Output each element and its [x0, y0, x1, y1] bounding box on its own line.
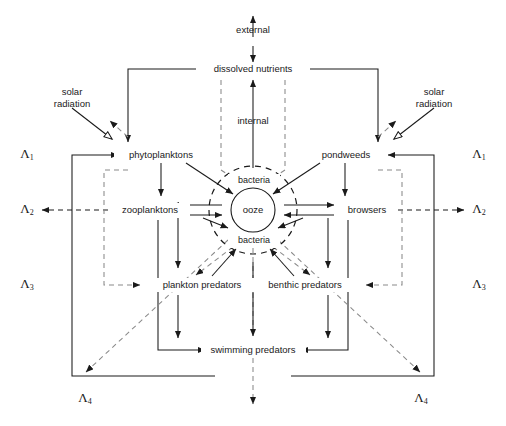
- bacteria-to-plankton-predators-dashed: [196, 247, 233, 275]
- label-internal: internal: [237, 115, 268, 126]
- left-outer-feedback-bracket: [72, 155, 215, 376]
- label-ooze: ooze: [243, 204, 264, 215]
- lambda-1-left: Λ1: [20, 146, 33, 162]
- label-bacteria-bottom: bacteria: [238, 235, 270, 245]
- pondweeds-to-bacteria-arrow: [273, 163, 320, 194]
- label-dissolved-nutrients: dissolved nutrients: [214, 63, 293, 74]
- ecosystem-flow-diagram: external dissolved nutrients internal so…: [0, 0, 506, 426]
- label-benthic-predators: benthic predators: [268, 279, 342, 290]
- zooplankton-to-ooze-arrow: [203, 218, 228, 228]
- lambda-3-right: Λ3: [472, 276, 485, 292]
- label-pondweeds: pondweeds: [322, 149, 371, 160]
- solar-radiation-right: [378, 108, 434, 139]
- label-solar-radiation-left-2: radiation: [54, 98, 90, 109]
- label-browsers: browsers: [348, 204, 387, 215]
- lambda-4-left: Λ4: [78, 390, 91, 406]
- lambda-1-right: Λ1: [472, 146, 485, 162]
- label-swimming-predators: swimming predators: [211, 344, 296, 355]
- lambda-3-left: Λ3: [20, 276, 33, 292]
- left-inner-dashed-bracket: [104, 170, 140, 285]
- label-plankton-predators: plankton predators: [163, 279, 242, 290]
- label-external: external: [236, 24, 270, 35]
- lambda-4-right: Λ4: [414, 390, 427, 406]
- label-solar-radiation-left-1: solar: [62, 86, 83, 97]
- label-solar-radiation-right-1: solar: [424, 86, 445, 97]
- label-bacteria-top: bacteria: [238, 175, 270, 185]
- browsers-to-ooze-arrow: [278, 218, 303, 228]
- phytoplankton-to-bacteria-arrow: [186, 163, 233, 194]
- solar-radiation-left: [72, 108, 128, 139]
- right-outer-feedback-bracket: [291, 155, 434, 376]
- label-zooplanktons: zooplanktons: [122, 204, 178, 215]
- lambda-2-right: Λ2: [472, 201, 485, 217]
- plankton-predators-to-bacteria-arrow: [212, 249, 236, 276]
- benthic-predators-to-bacteria-arrow: [270, 249, 294, 276]
- bacteria-to-benthic-predators-dashed: [273, 247, 310, 275]
- lambda-2-left: Λ2: [20, 201, 33, 217]
- label-solar-radiation-right-2: radiation: [416, 98, 452, 109]
- right-inner-dashed-bracket: [366, 170, 402, 285]
- diagram-canvas: external dissolved nutrients internal so…: [0, 0, 506, 426]
- label-phytoplanktons: phytoplanktons: [129, 149, 193, 160]
